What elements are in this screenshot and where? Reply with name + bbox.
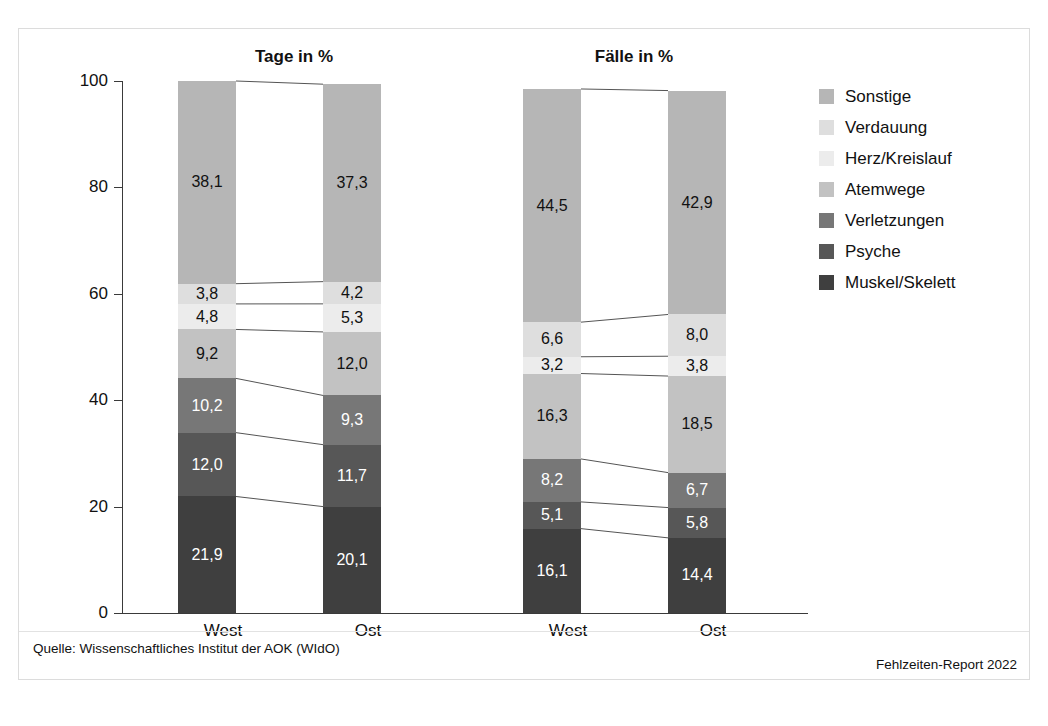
- legend-item-sonstige[interactable]: Sonstige: [819, 81, 1019, 112]
- y-tick-mark: [114, 81, 122, 82]
- legend-swatch-icon: [819, 182, 834, 197]
- legend-item-label: Psyche: [845, 242, 901, 262]
- y-tick-mark: [114, 187, 122, 188]
- footer-divider: [19, 631, 1029, 632]
- legend-item-label: Verletzungen: [845, 211, 944, 231]
- bar-segment-label: 6,7: [668, 482, 726, 498]
- bar-segment-label: 16,3: [523, 408, 581, 424]
- y-tick-label: 60: [48, 285, 108, 302]
- stacked-bar: 20,111,79,312,05,34,237,3: [323, 29, 381, 613]
- connector-line: [581, 529, 668, 538]
- stacked-bar: 14,45,86,718,53,88,042,9: [668, 29, 726, 613]
- y-tick-80: 80: [19, 187, 108, 188]
- bar-segment-label: 8,2: [523, 472, 581, 488]
- connector-line: [581, 356, 668, 357]
- bar-segment-label: 21,9: [178, 547, 236, 563]
- report-note: Fehlzeiten-Report 2022: [876, 657, 1017, 672]
- y-tick-label: 0: [48, 604, 108, 621]
- bar-segment-label: 12,0: [178, 457, 236, 473]
- chart-plot-area: Tage in % Fälle in % 020406080100 21,912…: [19, 29, 1031, 681]
- bar-segment-label: 4,8: [178, 309, 236, 325]
- y-tick-40: 40: [19, 400, 108, 401]
- bar-segment-label: 3,2: [523, 357, 581, 373]
- legend-swatch-icon: [819, 213, 834, 228]
- bar-segment-label: 3,8: [178, 286, 236, 302]
- y-tick-mark: [114, 400, 122, 401]
- bar-segment-label: 20,1: [323, 552, 381, 568]
- legend-swatch-icon: [819, 120, 834, 135]
- y-axis-line: [122, 81, 123, 614]
- y-tick-label: 80: [48, 178, 108, 195]
- y-tick-60: 60: [19, 294, 108, 295]
- connector-line: [236, 282, 323, 284]
- bar-segment-label: 42,9: [668, 195, 726, 211]
- connector-line: [236, 329, 323, 331]
- bar-segment-label: 5,1: [523, 507, 581, 523]
- bar-segment-label: 12,0: [323, 356, 381, 372]
- bar-segment-label: 6,6: [523, 331, 581, 347]
- y-tick-label: 20: [48, 498, 108, 515]
- connector-line: [236, 378, 323, 395]
- legend-item-verletzungen[interactable]: Verletzungen: [819, 205, 1019, 236]
- legend-item-label: Herz/Kreislauf: [845, 149, 952, 169]
- y-tick-100: 100: [19, 81, 108, 82]
- legend-item-label: Muskel/Skelett: [845, 273, 956, 293]
- y-tick-0: 0: [19, 613, 108, 614]
- bar-segment-label: 9,2: [178, 346, 236, 362]
- legend-item-label: Atemwege: [845, 180, 925, 200]
- legend-item-herz-kreislauf[interactable]: Herz/Kreislauf: [819, 143, 1019, 174]
- bar-segment-label: 5,8: [668, 515, 726, 531]
- connector-line: [581, 374, 668, 377]
- chart-legend: SonstigeVerdauungHerz/KreislaufAtemwegeV…: [819, 81, 1019, 298]
- legend-item-atemwege[interactable]: Atemwege: [819, 174, 1019, 205]
- legend-item-verdauung[interactable]: Verdauung: [819, 112, 1019, 143]
- y-tick-mark: [114, 294, 122, 295]
- bar-segment-label: 11,7: [323, 468, 381, 484]
- chart-figure: Tage in % Fälle in % 020406080100 21,912…: [18, 28, 1030, 680]
- connector-line: [581, 314, 668, 322]
- legend-item-psyche[interactable]: Psyche: [819, 236, 1019, 267]
- y-tick-mark: [114, 507, 122, 508]
- x-axis-line: [122, 613, 808, 614]
- connector-line: [581, 89, 668, 91]
- bar-segment-label: 4,2: [323, 285, 381, 301]
- connector-line: [581, 502, 668, 508]
- legend-swatch-icon: [819, 89, 834, 104]
- connector-line: [581, 459, 668, 473]
- bar-segment-label: 5,3: [323, 310, 381, 326]
- y-tick-label: 40: [48, 391, 108, 408]
- y-tick-20: 20: [19, 507, 108, 508]
- bar-segment-label: 16,1: [523, 563, 581, 579]
- bar-segment-label: 10,2: [178, 398, 236, 414]
- bar-segment-label: 44,5: [523, 198, 581, 214]
- source-note: Quelle: Wissenschaftliches Institut der …: [33, 641, 340, 656]
- bar-segment-label: 3,8: [668, 358, 726, 374]
- legend-swatch-icon: [819, 244, 834, 259]
- connector-line: [236, 496, 323, 506]
- y-tick-mark: [114, 613, 122, 614]
- bar-segment-label: 8,0: [668, 327, 726, 343]
- bar-segment-label: 18,5: [668, 416, 726, 432]
- legend-swatch-icon: [819, 151, 834, 166]
- legend-item-label: Sonstige: [845, 87, 911, 107]
- stacked-bar: 21,912,010,29,24,83,838,1: [178, 29, 236, 613]
- legend-swatch-icon: [819, 275, 834, 290]
- stacked-bar: 16,15,18,216,33,26,644,5: [523, 29, 581, 613]
- bar-segment-label: 37,3: [323, 175, 381, 191]
- bar-segment-label: 14,4: [668, 567, 726, 583]
- connector-line: [236, 433, 323, 445]
- bar-segment-label: 38,1: [178, 174, 236, 190]
- bar-segment-label: 9,3: [323, 412, 381, 428]
- legend-item-label: Verdauung: [845, 118, 927, 138]
- y-tick-label: 100: [48, 72, 108, 89]
- connector-line: [236, 81, 323, 84]
- legend-item-muskel-skelett[interactable]: Muskel/Skelett: [819, 267, 1019, 298]
